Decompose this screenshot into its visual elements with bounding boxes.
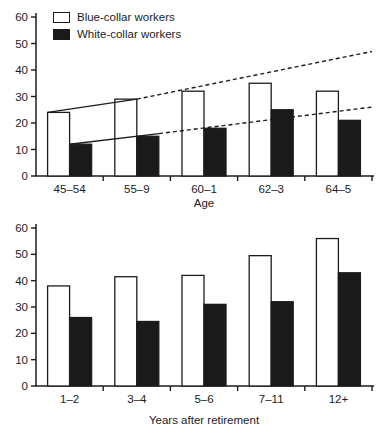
bar-white-collar [271,110,293,176]
bar-white-collar [137,321,159,386]
y-tick-label: 0 [22,380,28,392]
y-tick-label: 50 [15,38,28,50]
legend-item-white-collar: White-collar workers [53,28,181,40]
x-tick-label: 62–3 [258,183,284,195]
retirement-chart-canvas: 01020304050601–23–45–67–1112+ [0,221,391,442]
legend-label: White-collar workers [77,28,181,40]
bar-white-collar [271,302,293,386]
bar-blue-collar [249,256,271,386]
bar-white-collar [137,136,159,176]
y-tick-label: 40 [15,64,28,76]
bar-white-collar [204,304,226,386]
bar-white-collar [204,128,226,176]
x-axis-title-years-after-retirement: Years after retirement [36,414,372,426]
x-tick-label: 45–54 [54,183,87,195]
bar-blue-collar [316,239,338,386]
x-tick-label: 3–4 [127,393,147,405]
y-tick-label: 40 [15,275,28,287]
bar-blue-collar [48,112,70,176]
y-tick-label: 30 [15,91,28,103]
bar-blue-collar [48,286,70,386]
bar-blue-collar [316,91,338,176]
x-tick-label: 60–1 [191,183,217,195]
bar-white-collar [338,273,360,386]
x-tick-label: 7–11 [259,393,284,405]
y-tick-label: 10 [15,144,28,156]
y-tick-label: 50 [15,248,28,260]
x-tick-label: 1–2 [60,393,79,405]
x-tick-label: 5–6 [194,393,213,405]
bar-blue-collar [182,91,204,176]
x-tick-label: 12+ [329,393,349,405]
y-tick-label: 30 [15,301,28,313]
y-tick-label: 60 [15,222,28,234]
age-bar-chart: 010203040506045–5455–960–162–364–5 Blue-… [0,0,391,221]
blue-collar-swatch-icon [53,12,70,23]
bar-white-collar [70,144,92,176]
bar-blue-collar [115,277,137,386]
legend-label: Blue-collar workers [77,11,175,23]
x-axis-title-age: Age [36,197,372,209]
bar-white-collar [70,318,92,386]
bar-blue-collar [182,275,204,386]
retirement-bar-chart: 01020304050601–23–45–67–1112+ Years afte… [0,221,391,442]
x-tick-label: 64–5 [326,183,352,195]
y-tick-label: 20 [15,327,28,339]
two-panel-bar-chart-figure: 010203040506045–5455–960–162–364–5 Blue-… [0,0,391,442]
x-tick-label: 55–9 [124,183,150,195]
legend-item-blue-collar: Blue-collar workers [53,11,181,23]
y-tick-label: 60 [15,11,28,23]
bar-white-collar [338,120,360,176]
y-tick-label: 10 [15,354,28,366]
y-tick-label: 20 [15,117,28,129]
chart-legend: Blue-collar workers White-collar workers [53,11,181,40]
bar-blue-collar [249,83,271,176]
white-collar-swatch-icon [53,29,70,40]
y-tick-label: 0 [22,170,28,182]
